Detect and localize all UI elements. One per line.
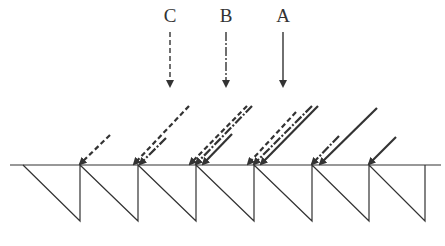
incident-beam-arrows [80, 106, 396, 164]
beam-direction-arrows [170, 32, 283, 86]
incident-arrow-dash-dot [140, 138, 166, 164]
incident-arrow-solid [320, 108, 377, 164]
grating-diagram: CBA [0, 0, 445, 246]
incident-arrow-dash-dot [196, 106, 252, 164]
incident-arrow-dashed [190, 106, 247, 164]
label-c: C [164, 5, 177, 26]
incident-arrow-solid [369, 137, 396, 164]
incident-arrow-solid [261, 106, 318, 164]
incident-arrow-dash-dot [254, 106, 312, 164]
incident-arrow-dashed [134, 106, 189, 164]
incident-arrow-dashed [80, 135, 110, 164]
sawtooth-grating-profile [23, 165, 425, 221]
beam-labels: CBA [164, 5, 290, 26]
incident-arrow-solid [203, 134, 232, 164]
label-a: A [276, 5, 290, 26]
incident-arrow-dashed [248, 112, 296, 164]
label-b: B [220, 5, 233, 26]
sawtooth-path [23, 165, 425, 221]
